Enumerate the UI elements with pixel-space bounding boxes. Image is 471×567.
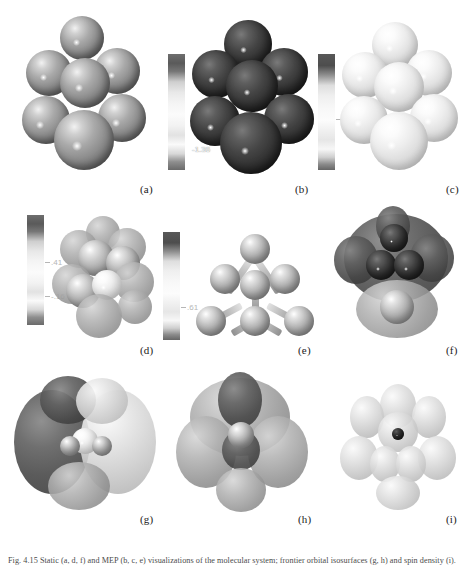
atom-sphere (240, 270, 270, 300)
colorbar-gradient (27, 215, 44, 325)
panel-b-label: (b) (295, 183, 308, 195)
atom-sphere (240, 234, 270, 264)
colorbar-panel-c (318, 54, 335, 170)
panel-f-label: (f) (446, 344, 458, 356)
atom-sphere (60, 16, 104, 60)
colorbar-panel-e (163, 232, 180, 340)
isosurface-blob (118, 290, 152, 324)
atom-sphere (270, 264, 300, 294)
panel-d-label: (d) (140, 344, 153, 356)
panel-c-label: (c) (446, 183, 459, 195)
panel-e (196, 234, 320, 342)
panel-f (330, 206, 466, 342)
atom-sphere (228, 422, 254, 448)
figure-caption: Fig. 4.15 Static (a, d, f) and MEP (b, c… (8, 556, 466, 567)
atom-sphere (210, 264, 240, 294)
atom-sphere (366, 250, 396, 280)
colorbar-gradient (163, 232, 180, 340)
atom-sphere (284, 306, 314, 336)
panel-a (20, 14, 150, 182)
panel-d (48, 216, 164, 342)
orbital-lobe (48, 462, 110, 510)
colorbar-gradient (318, 54, 335, 170)
atom-sphere (380, 224, 408, 252)
panel-h (172, 372, 312, 514)
panel-c (338, 22, 462, 182)
atom-sphere (380, 290, 414, 324)
panel-a-label: (a) (140, 183, 153, 195)
panel-e-label: (e) (298, 344, 311, 356)
atom-sphere (92, 436, 112, 456)
orbital-lobe (218, 372, 262, 428)
atom-sphere (370, 112, 428, 170)
atom-sphere (60, 436, 80, 456)
colorbar-panel-b (168, 54, 185, 170)
panel-g (14, 376, 160, 512)
colorbar-panel-d (27, 215, 44, 325)
orbital-lobe (216, 468, 266, 512)
panel-i-label: (i) (446, 513, 457, 525)
colorbar-gradient (168, 54, 185, 170)
isosurface-blob (376, 476, 420, 510)
atom-sphere (240, 306, 270, 336)
isosurface-blob (76, 294, 122, 338)
atom-sphere (392, 428, 404, 440)
tick-dash (181, 307, 186, 308)
atom-sphere (60, 58, 110, 108)
panel-i (336, 384, 460, 512)
atom-sphere (196, 306, 226, 336)
atom-sphere (54, 110, 114, 170)
atom-sphere (220, 112, 282, 174)
panel-g-label: (g) (140, 513, 153, 525)
figure-container: (a) .891 -1.36 (b) .74 (c) (0, 0, 471, 567)
panel-b (190, 20, 318, 182)
orbital-lobe (76, 378, 128, 424)
atom-sphere (394, 250, 424, 280)
panel-h-label: (h) (298, 513, 311, 525)
